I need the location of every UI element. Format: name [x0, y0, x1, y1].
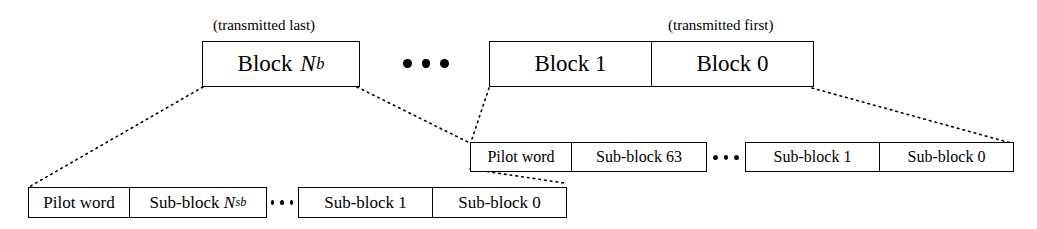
block1-subblock-0-cell[interactable]: Sub-block 0 — [879, 143, 1013, 171]
blocknb-group-right: Sub-block 1 Sub-block 0 — [298, 187, 567, 218]
connector-nb-left — [29, 87, 203, 187]
blocknb-expansion-right: Sub-block 1 Sub-block 0 — [298, 187, 567, 218]
blocknb-subblock-nsb-label: Sub-block — [150, 193, 224, 213]
blocknb-subblock-0-cell[interactable]: Sub-block 0 — [432, 188, 566, 217]
block-group-01: Block 1 Block 0 — [489, 41, 814, 87]
block-cell-nb-subscript: b — [316, 54, 325, 74]
block-row-left: Block Nb — [202, 41, 360, 87]
blocknb-subblock-nsb-subscript: sb — [235, 195, 246, 210]
block1-group-left: Pilot word Sub-block 63 — [470, 142, 707, 172]
block-cell-0[interactable]: Block 0 — [651, 42, 813, 86]
block1-pilot-word-cell[interactable]: Pilot word — [471, 143, 571, 171]
ellipsis-blocknb-expansion — [268, 197, 296, 207]
blocknb-subblock-nsb-cell[interactable]: Sub-block Nsb — [129, 188, 266, 217]
block-cell-1[interactable]: Block 1 — [490, 42, 651, 86]
block1-group-right: Sub-block 1 Sub-block 0 — [745, 142, 1014, 172]
ellipsis-block-row — [398, 56, 454, 70]
ellipsis-dot — [280, 200, 283, 205]
ellipsis-block1-expansion — [710, 152, 742, 162]
block-cell-nb[interactable]: Block Nb — [203, 42, 359, 86]
ellipsis-dot — [271, 200, 274, 205]
block-group-nb: Block Nb — [202, 41, 360, 87]
caption-transmitted-last: (transmitted last) — [213, 17, 315, 34]
ellipsis-dot — [403, 59, 412, 68]
ellipsis-dot — [440, 59, 449, 68]
block1-subblock-63-cell[interactable]: Sub-block 63 — [571, 143, 706, 171]
diagram-canvas: (transmitted last) (transmitted first) B… — [0, 0, 1037, 229]
caption-transmitted-first: (transmitted first) — [668, 17, 773, 34]
blocknb-subblock-1-cell[interactable]: Sub-block 1 — [299, 188, 432, 217]
block-row-right: Block 1 Block 0 — [489, 41, 814, 87]
ellipsis-dot — [734, 155, 739, 160]
ellipsis-dot — [724, 155, 729, 160]
connector-b1-right — [812, 88, 1011, 143]
connector-b1-left — [471, 88, 489, 142]
connector-nb-right — [357, 87, 470, 143]
blocknb-subblock-nsb-symbol: N — [224, 193, 235, 213]
blocknb-expansion-left: Pilot word Sub-block Nsb — [28, 187, 267, 218]
block1-expansion-left: Pilot word Sub-block 63 — [470, 142, 707, 172]
ellipsis-dot — [713, 155, 718, 160]
block1-subblock-1-cell[interactable]: Sub-block 1 — [746, 143, 879, 171]
blocknb-group-left: Pilot word Sub-block Nsb — [28, 187, 267, 218]
block-cell-nb-symbol: N — [298, 51, 315, 77]
ellipsis-dot — [422, 59, 431, 68]
block1-expansion-right: Sub-block 1 Sub-block 0 — [745, 142, 1014, 172]
blocknb-pilot-word-cell[interactable]: Pilot word — [29, 188, 129, 217]
ellipsis-dot — [290, 200, 293, 205]
block-cell-nb-label: Block — [238, 51, 299, 77]
